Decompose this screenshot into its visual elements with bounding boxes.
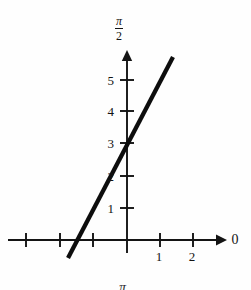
x-axis-arrow-icon	[216, 235, 227, 246]
x-tick-label-1: 1	[156, 250, 163, 263]
y-tick-label-2: 2	[101, 170, 114, 183]
y-tick-label-5: 5	[101, 74, 114, 87]
y-axis-arrow-icon	[122, 50, 132, 61]
y-tick-label-4: 4	[101, 105, 114, 118]
line-graph-figure: π 2 0 1 2 3 4 5 1 2 π	[0, 0, 251, 290]
data-line-series	[68, 57, 173, 258]
y-tick-label-3: 3	[101, 137, 114, 150]
y-axis-label: π 2	[115, 15, 123, 42]
y-tick-label-1: 1	[101, 202, 114, 215]
y-axis-label-numerator: π	[115, 15, 123, 29]
plot-canvas	[0, 0, 251, 290]
bottom-partial-mark: π	[119, 281, 131, 290]
x-axis-label: 0	[232, 233, 239, 247]
x-tick-label-2: 2	[189, 250, 196, 263]
y-axis-label-denominator: 2	[115, 29, 123, 42]
